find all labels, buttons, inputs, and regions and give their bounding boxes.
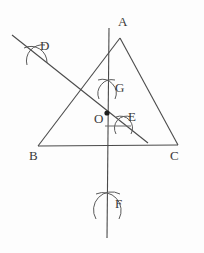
point-label-e: E: [128, 110, 136, 123]
point-label-d: D: [40, 39, 49, 52]
point-label-f: F: [115, 197, 122, 210]
geometry-figure-canvas: A B C D E F G O: [0, 0, 204, 253]
segment-ac: [120, 38, 178, 145]
point-label-g: G: [115, 81, 124, 94]
point-label-b: B: [29, 149, 38, 162]
point-label-o: O: [94, 112, 103, 125]
point-o-dot: [104, 110, 109, 115]
perpendicular-bisector-line: [107, 28, 109, 238]
geometry-svg: [0, 0, 204, 253]
point-label-c: C: [170, 149, 179, 162]
point-label-a: A: [118, 15, 127, 28]
arc-cross-g: [98, 79, 116, 99]
